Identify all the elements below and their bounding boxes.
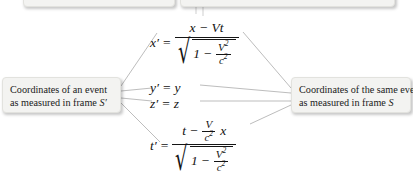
equation-y-prime-rhs: y bbox=[175, 80, 181, 96]
numerator-v-over-c2: V c2 bbox=[202, 119, 215, 143]
equation-x-prime-radicand: 1 − V2 c2 bbox=[192, 39, 235, 66]
numerator-frac-den: c2 bbox=[202, 132, 215, 144]
radicand-denominator-exponent: 2 bbox=[224, 52, 228, 61]
callout-left-line2: as measured in frame S′ bbox=[10, 96, 114, 109]
callout-right-line2-prefix: as measured in frame bbox=[299, 97, 388, 108]
radicand-numerator-exponent: 2 bbox=[225, 39, 229, 48]
lorentz-transformation-figure: Coordinates of an event as measured in f… bbox=[0, 0, 413, 187]
equation-x-prime-numerator: x − Vt bbox=[187, 20, 227, 37]
equation-z-prime-rhs: z bbox=[174, 96, 179, 112]
equation-y-prime: y′ = y bbox=[150, 80, 181, 96]
radicand-denominator-exponent: 2 bbox=[222, 159, 226, 168]
radicand-one: 1 bbox=[191, 153, 198, 169]
radicand-denominator: c2 bbox=[215, 162, 228, 174]
radicand-minus: − bbox=[203, 46, 212, 62]
radicand-denominator: c2 bbox=[217, 55, 230, 67]
equation-t-prime-lhs: t′ bbox=[150, 138, 157, 154]
equation-z-prime-equals: = bbox=[162, 96, 170, 112]
equation-x-prime-denominator: √ 1 − V2 c2 bbox=[175, 38, 239, 66]
equation-t-prime-radicand: 1 − V2 c2 bbox=[190, 146, 233, 173]
equation-t-prime-denominator: √ 1 − V2 c2 bbox=[172, 145, 236, 173]
callout-right-line2: as measured in frame S bbox=[299, 96, 404, 109]
equation-t-prime-fraction: t − V c2 x √ 1 bbox=[172, 119, 236, 173]
callout-right-frame-symbol: S bbox=[388, 97, 393, 108]
radicand-one: 1 bbox=[193, 46, 200, 62]
radicand-minus: − bbox=[201, 153, 210, 169]
equation-z-prime-lhs: z′ bbox=[150, 96, 158, 112]
equation-x-prime: x′ = x − Vt √ 1 − V2 c2 bbox=[150, 20, 239, 66]
numerator-minus: − bbox=[189, 123, 198, 139]
equation-x-prime-fraction: x − Vt √ 1 − V2 c2 bbox=[175, 20, 239, 66]
radical-sign-icon: √ bbox=[175, 143, 187, 177]
numerator-x: x bbox=[220, 123, 226, 139]
callout-left-line2-prefix: as measured in frame bbox=[10, 97, 99, 108]
callout-right-frame-s: Coordinates of the same event as measure… bbox=[291, 77, 411, 113]
equation-z-prime: z′ = z bbox=[150, 96, 179, 112]
numerator-frac-den-exponent: 2 bbox=[209, 129, 213, 138]
numerator-t: t bbox=[182, 123, 186, 139]
equation-x-prime-equals: = bbox=[163, 35, 171, 51]
callout-left-frame-symbol: S′ bbox=[99, 97, 106, 108]
equation-y-prime-equals: = bbox=[163, 80, 171, 96]
equation-x-prime-lhs: x′ bbox=[150, 35, 159, 51]
radicand-v2-over-c2: V2 c2 bbox=[216, 42, 230, 66]
radicand-numerator-exponent: 2 bbox=[223, 146, 227, 155]
equation-y-prime-lhs: y′ bbox=[150, 80, 159, 96]
radicand-v2-over-c2: V2 c2 bbox=[214, 149, 228, 173]
callout-left-line1: Coordinates of an event bbox=[10, 83, 114, 96]
callout-top-left bbox=[23, 0, 175, 7]
equation-t-prime: t′ = t − V c2 x bbox=[150, 119, 236, 173]
equation-x-prime-radical: √ 1 − V2 c2 bbox=[178, 39, 236, 66]
callout-top-right bbox=[180, 0, 395, 7]
callout-left-frame-s-prime: Coordinates of an event as measured in f… bbox=[2, 77, 121, 113]
radical-sign-icon: √ bbox=[178, 36, 190, 70]
equation-t-prime-equals: = bbox=[161, 138, 169, 154]
callout-right-line1: Coordinates of the same event bbox=[299, 83, 404, 96]
equation-t-prime-radical: √ 1 − V2 c2 bbox=[175, 146, 233, 173]
